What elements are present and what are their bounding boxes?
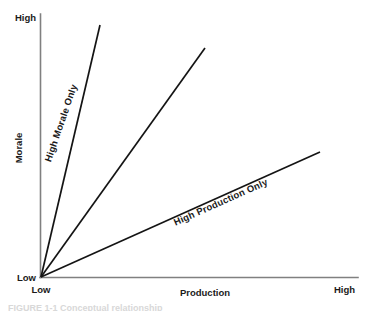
y-axis-high-label: High bbox=[15, 12, 36, 23]
ray-label-high-production-only: High Production Only bbox=[172, 176, 270, 228]
ray-balanced bbox=[41, 48, 205, 277]
figure-caption-cutoff: FIGURE 1-1 Conceptual relationship bbox=[8, 303, 360, 311]
y-axis-title: Morale bbox=[13, 133, 24, 164]
chart-svg: High Low Low High Production Morale High… bbox=[0, 0, 368, 311]
y-axis-low-label: Low bbox=[17, 272, 37, 283]
ray-label-high-morale-only: High Morale Only bbox=[42, 82, 79, 163]
x-axis-high-label: High bbox=[334, 284, 355, 295]
x-axis-low-label: Low bbox=[32, 284, 52, 295]
figure-container: High Low Low High Production Morale High… bbox=[0, 0, 368, 311]
x-axis-title: Production bbox=[180, 287, 230, 298]
